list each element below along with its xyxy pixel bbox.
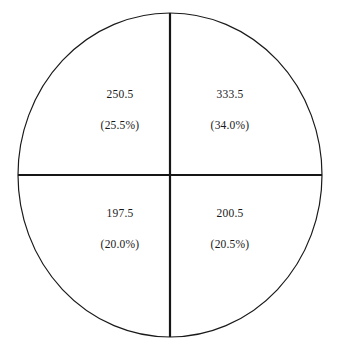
pie-slice-bottom-right (170, 175, 322, 337)
pie-chart-figure: 250.5 (25.5%) 333.5 (34.0%) 197.5 (20.0%… (0, 0, 339, 351)
pie-slice-bottom-left (18, 175, 170, 337)
pie-label-top-right: 333.5 (34.0%) (182, 88, 278, 131)
pie-label-bottom-right: 200.5 (20.5%) (182, 207, 278, 250)
pie-label-bottom-left: 197.5 (20.0%) (72, 207, 168, 250)
pie-label-bottom-left-value: 197.5 (72, 207, 168, 219)
pie-label-top-left: 250.5 (25.5%) (72, 88, 168, 131)
pie-label-top-right-value: 333.5 (182, 88, 278, 100)
pie-label-bottom-left-percent: (20.0%) (72, 238, 168, 250)
pie-chart-canvas (0, 0, 339, 351)
pie-label-top-right-percent: (34.0%) (182, 119, 278, 131)
pie-label-bottom-right-value: 200.5 (182, 207, 278, 219)
pie-label-top-left-percent: (25.5%) (72, 119, 168, 131)
pie-label-top-left-value: 250.5 (72, 88, 168, 100)
pie-label-bottom-right-percent: (20.5%) (182, 238, 278, 250)
